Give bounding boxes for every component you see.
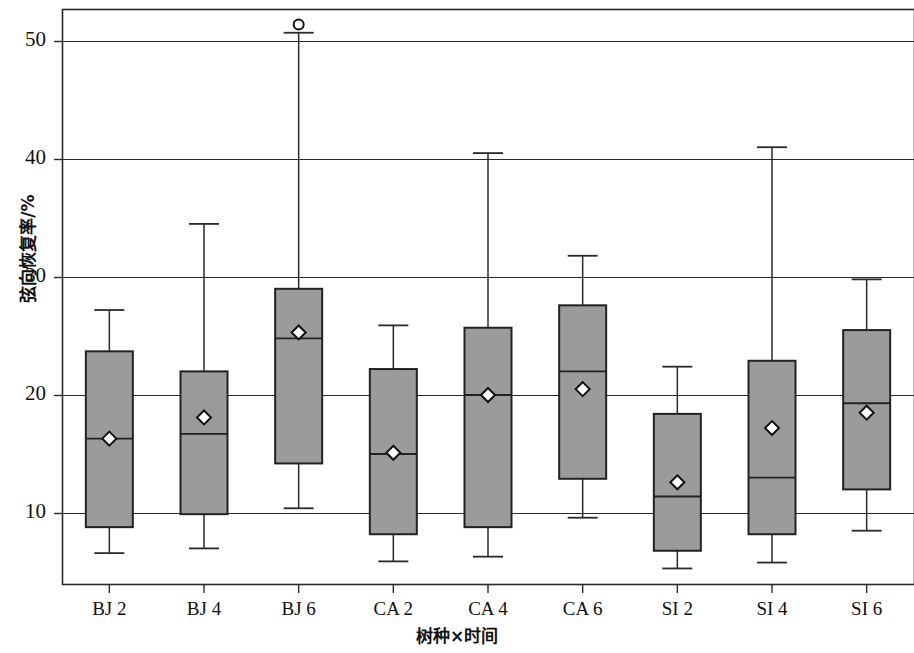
box-iqr [749,361,796,534]
box-plot-group [843,279,890,530]
box-plot-chart: 弦向恢复率/% 树种×时间 1020304050 BJ 2BJ 4BJ 6CA … [0,0,914,653]
box-plot-group [559,256,606,518]
box-iqr [181,371,228,514]
box-plot-group [749,147,796,562]
plot-canvas [0,0,914,653]
outlier-point [294,19,304,29]
box-plot-group [86,310,133,553]
box-iqr [465,328,512,527]
box-plot-group [465,153,512,557]
box-plot-group [654,367,701,569]
box-plot-group [370,325,417,561]
box-plot-group [181,224,228,549]
box-plot-group [275,19,322,508]
box-iqr [275,289,322,464]
